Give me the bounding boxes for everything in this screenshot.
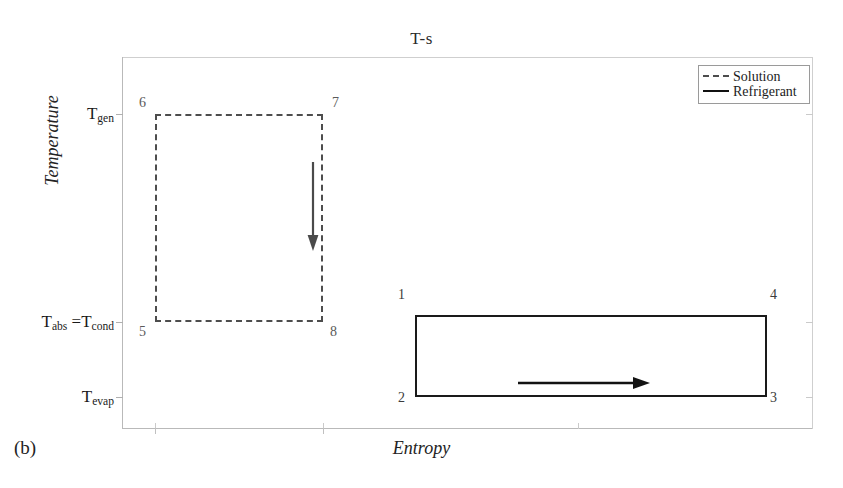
y-tick-label-tgen-sub: gen (97, 112, 114, 125)
y-tick-label-equals: = (67, 312, 81, 331)
y-tick-label-tabs-sub: abs (52, 320, 67, 333)
legend-dashed-line-icon (703, 75, 729, 78)
x-tick-left-outer (155, 428, 156, 434)
state-point-2: 2 (398, 391, 405, 405)
plot-top-spine (122, 57, 812, 58)
legend: Solution Refrigerant (698, 65, 810, 104)
y-tick-label-tgen-main: T (87, 104, 97, 123)
y-axis-line (122, 57, 123, 429)
solution-cycle-path (155, 114, 323, 322)
state-point-1: 1 (398, 288, 405, 302)
legend-entry-refrigerant: Refrigerant (703, 84, 805, 99)
ts-diagram-figure: T-s Entropy Temperature (b) Tgen Tabs =T… (0, 0, 843, 488)
state-point-3: 3 (770, 391, 777, 405)
state-point-5: 5 (139, 325, 146, 339)
state-point-4: 4 (770, 288, 777, 302)
x-axis-label: Entropy (0, 438, 843, 459)
y-tick-tgen (116, 114, 123, 115)
subfigure-label: (b) (14, 437, 36, 459)
y-tick-tabs-tcond (116, 322, 123, 323)
legend-label-solution: Solution (733, 69, 780, 85)
solution-down-arrow-icon (303, 158, 327, 258)
state-point-7: 7 (332, 96, 339, 110)
x-axis-line (122, 428, 812, 429)
y-tick-label-tevap-sub: evap (92, 395, 114, 408)
plot-right-spine (812, 57, 813, 429)
y-tick-right-tabs (806, 322, 813, 323)
legend-entry-solution: Solution (703, 69, 805, 84)
legend-solid-line-icon (703, 90, 729, 93)
y-tick-label-tabs-main: T (42, 312, 52, 331)
y-axis-label: Temperature (42, 61, 63, 221)
x-tick-mid-outer (323, 428, 324, 434)
y-tick-right-tgen (806, 114, 813, 115)
legend-label-refrigerant: Refrigerant (733, 84, 797, 100)
state-point-8: 8 (330, 325, 337, 339)
state-point-6: 6 (139, 96, 146, 110)
y-tick-label-tevap-main: T (82, 387, 92, 406)
y-tick-label-tcond-main: T (81, 312, 91, 331)
y-tick-label-tcond-sub: cond (92, 320, 114, 333)
x-tick-right (578, 423, 579, 429)
refrigerant-right-arrow-icon (514, 372, 658, 394)
chart-title: T-s (0, 29, 843, 49)
y-tick-right-tevap (806, 397, 813, 398)
y-tick-tevap (116, 397, 123, 398)
